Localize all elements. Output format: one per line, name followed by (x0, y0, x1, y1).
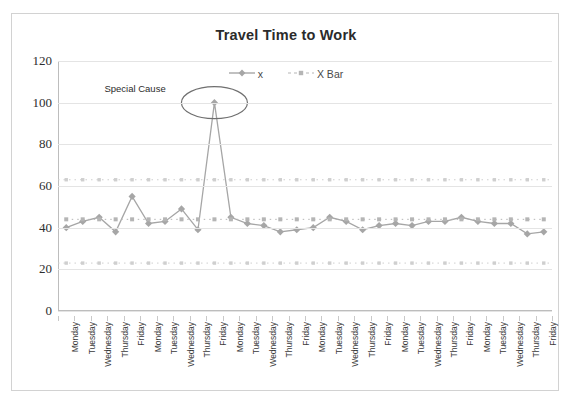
control-limit-marker (460, 261, 463, 264)
y-axis-tick-label: 0 (14, 303, 52, 319)
data-point-marker[interactable] (147, 217, 151, 221)
control-limit-marker (163, 178, 166, 181)
data-point-marker[interactable] (492, 217, 496, 221)
x-axis-tick-label: Thursday (120, 322, 130, 357)
x-axis-tick (503, 316, 504, 321)
data-point-marker[interactable] (525, 217, 529, 221)
data-point-marker[interactable] (114, 217, 118, 221)
control-limit-marker (443, 261, 446, 264)
control-limit-marker (493, 178, 496, 181)
data-point-marker[interactable] (277, 228, 284, 235)
data-point-marker[interactable] (64, 217, 68, 221)
control-limit-marker (262, 178, 265, 181)
data-point-marker[interactable] (212, 217, 216, 221)
y-axis-tick-label: 20 (14, 261, 52, 277)
x-axis-tick-label: Thursday (449, 322, 459, 357)
data-point-marker[interactable] (311, 217, 315, 221)
x-axis-tick-label: Wednesday (103, 322, 113, 367)
x-axis-tick (387, 316, 388, 321)
data-point-marker[interactable] (328, 217, 332, 221)
x-axis-tick (91, 316, 92, 321)
x-axis-tick (140, 316, 141, 321)
control-limit-marker (377, 261, 380, 264)
x-axis-labels: MondayTuesdayWednesdayThursdayFridayMond… (58, 312, 552, 390)
control-limit-marker (460, 178, 463, 181)
x-axis-tick-label: Wednesday (515, 322, 525, 367)
control-limit-marker (213, 261, 216, 264)
control-limit-marker (328, 261, 331, 264)
data-point-marker[interactable] (129, 193, 136, 200)
x-axis-tick (157, 316, 158, 321)
x-axis-tick-label: Tuesday (169, 322, 179, 354)
data-point-marker[interactable] (509, 217, 513, 221)
data-point-marker[interactable] (476, 217, 480, 221)
x-axis-tick (486, 316, 487, 321)
control-limit-marker (344, 261, 347, 264)
x-axis-tick-label: Friday (465, 322, 475, 346)
data-point-marker[interactable] (540, 228, 547, 235)
data-point-marker[interactable] (377, 217, 381, 221)
data-point-marker[interactable] (394, 217, 398, 221)
data-point-marker[interactable] (196, 217, 200, 221)
y-axis-tick-label: 60 (14, 178, 52, 194)
data-point-marker[interactable] (262, 217, 266, 221)
data-point-marker[interactable] (361, 217, 365, 221)
control-limit-marker (130, 178, 133, 181)
control-limit-marker (526, 261, 529, 264)
data-point-marker[interactable] (344, 217, 348, 221)
data-point-marker[interactable] (81, 217, 85, 221)
x-axis-tick (354, 316, 355, 321)
control-limit-marker (147, 178, 150, 181)
series-line-x (66, 103, 544, 234)
x-axis-tick (404, 316, 405, 321)
data-point-marker[interactable] (163, 217, 167, 221)
control-limit-marker (509, 261, 512, 264)
data-point-marker[interactable] (245, 217, 249, 221)
control-limit-marker (493, 261, 496, 264)
data-point-marker[interactable] (443, 217, 447, 221)
y-axis-tick-label: 80 (14, 136, 52, 152)
data-point-marker[interactable] (410, 217, 414, 221)
control-limit-marker (279, 178, 282, 181)
control-limit-marker (163, 261, 166, 264)
control-limit-marker (65, 261, 68, 264)
x-axis-tick-label: Monday (235, 322, 245, 352)
control-limit-marker (81, 178, 84, 181)
control-limit-marker (410, 178, 413, 181)
control-limit-marker (196, 178, 199, 181)
data-point-marker[interactable] (130, 217, 134, 221)
x-axis-tick-label: Friday (301, 322, 311, 346)
data-point-marker[interactable] (459, 217, 463, 221)
x-axis-tick (321, 316, 322, 321)
control-limit-marker (377, 178, 380, 181)
data-point-marker[interactable] (180, 217, 184, 221)
x-axis-tick-label: Tuesday (416, 322, 426, 354)
data-point-marker[interactable] (524, 230, 531, 237)
control-limit-marker (542, 261, 545, 264)
x-axis-tick (223, 316, 224, 321)
x-axis-tick (58, 316, 59, 321)
data-point-marker[interactable] (229, 217, 233, 221)
control-limit-marker (361, 178, 364, 181)
control-limit-marker (476, 178, 479, 181)
control-limit-marker (542, 178, 545, 181)
control-limit-marker (97, 178, 100, 181)
control-limit-marker (295, 178, 298, 181)
data-point-marker[interactable] (97, 217, 101, 221)
data-point-marker[interactable] (295, 217, 299, 221)
data-point-marker[interactable] (427, 217, 431, 221)
x-axis-tick-label: Friday (218, 322, 228, 346)
data-point-marker[interactable] (278, 217, 282, 221)
y-axis-tick-label: 40 (14, 220, 52, 236)
control-limit-marker (114, 261, 117, 264)
data-point-marker[interactable] (542, 217, 546, 221)
x-axis-tick-label: Tuesday (498, 322, 508, 354)
x-axis-tick-label: Friday (548, 322, 558, 346)
gridline (58, 186, 552, 187)
x-axis-tick (107, 316, 108, 321)
control-limit-marker (394, 261, 397, 264)
control-limit-marker (180, 178, 183, 181)
chart-title: Travel Time to Work (12, 27, 560, 43)
x-axis-tick-label: Friday (383, 322, 393, 346)
x-axis-tick (124, 316, 125, 321)
